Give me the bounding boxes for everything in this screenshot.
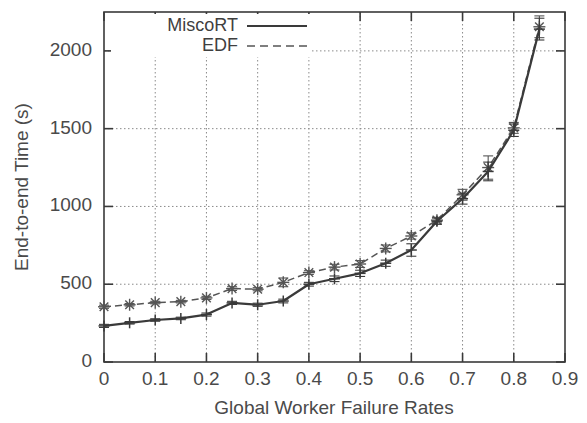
- y-tick-label: 500: [60, 272, 92, 293]
- x-tick-label: 0.2: [193, 368, 219, 389]
- x-tick-label: 0.9: [552, 368, 578, 389]
- y-tick-label: 1500: [50, 117, 92, 138]
- legend-label-edf: EDF: [202, 35, 238, 55]
- legend: MiscoRT EDF: [111, 14, 312, 57]
- x-tick-label: 0.5: [347, 368, 373, 389]
- x-tick-label: 0.1: [142, 368, 168, 389]
- y-gridlines: [104, 51, 565, 284]
- legend-label-miscort: MiscoRT: [167, 15, 238, 35]
- series-line: [104, 29, 539, 326]
- y-tick-label: 2000: [50, 39, 92, 60]
- x-tick-label: 0.7: [449, 368, 475, 389]
- x-tick-label: 0.8: [501, 368, 527, 389]
- y-tick-label: 0: [81, 350, 92, 371]
- x-tick-label: 0.6: [398, 368, 424, 389]
- x-tick-label: 0.4: [296, 368, 323, 389]
- chart-figure: 0500100015002000 00.10.20.30.40.50.60.70…: [0, 0, 587, 423]
- plot-frame: [104, 12, 565, 362]
- x-gridlines: [155, 12, 514, 362]
- y-tick-label: 1000: [50, 194, 92, 215]
- end-to-end-time-line-chart: 0500100015002000 00.10.20.30.40.50.60.70…: [0, 0, 587, 423]
- x-axis-tick-labels: 00.10.20.30.40.50.60.70.80.9: [99, 368, 579, 389]
- series-line: [104, 27, 539, 307]
- x-axis-title: Global Worker Failure Rates: [214, 397, 453, 418]
- x-axis-ticks: [104, 12, 565, 362]
- y-axis-tick-labels: 0500100015002000: [50, 39, 92, 371]
- y-axis-title: End-to-end Time (s): [11, 103, 32, 271]
- x-tick-label: 0.3: [244, 368, 270, 389]
- x-tick-label: 0: [99, 368, 110, 389]
- series-edf: [98, 16, 545, 313]
